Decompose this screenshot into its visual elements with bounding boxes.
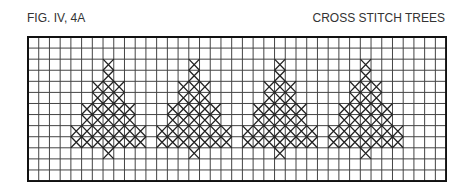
cross-stitch xyxy=(382,103,393,114)
cross-stitch xyxy=(253,126,264,137)
cross-stitch xyxy=(92,115,103,126)
cross-stitch xyxy=(71,137,82,148)
cross-stitch xyxy=(200,92,211,103)
cross-stitch xyxy=(242,126,253,137)
cross-stitch xyxy=(114,92,125,103)
cross-stitch xyxy=(92,103,103,114)
cross-stitch xyxy=(103,137,114,148)
cross-stitch xyxy=(200,103,211,114)
cross-stitch xyxy=(189,70,200,81)
cross-stitch xyxy=(253,103,264,114)
cross-stitch xyxy=(392,137,403,148)
cross-stitch xyxy=(339,137,350,148)
cross-stitch xyxy=(296,103,307,114)
cross-stitch xyxy=(275,103,286,114)
cross-stitch xyxy=(71,126,82,137)
cross-stitch xyxy=(307,137,318,148)
cross-stitch xyxy=(167,115,178,126)
cross-stitch xyxy=(200,115,211,126)
cross-stitch xyxy=(360,115,371,126)
cross-stitch xyxy=(371,126,382,137)
cross-stitch xyxy=(360,81,371,92)
tree-4 xyxy=(328,59,403,159)
cross-stitch xyxy=(360,137,371,148)
cross-stitch xyxy=(360,59,371,70)
cross-stitch xyxy=(200,137,211,148)
cross-stitch xyxy=(103,59,114,70)
cross-stitch xyxy=(328,126,339,137)
cross-stitch xyxy=(360,103,371,114)
figure-label: FIG. IV, 4A xyxy=(27,11,85,25)
cross-stitch xyxy=(264,115,275,126)
cross-stitch-grid xyxy=(27,36,447,182)
cross-stitch xyxy=(210,126,221,137)
cross-stitch xyxy=(371,115,382,126)
cross-stitch xyxy=(339,103,350,114)
cross-stitch xyxy=(285,115,296,126)
cross-stitch xyxy=(275,148,286,159)
cross-stitch xyxy=(178,137,189,148)
cross-stitch xyxy=(103,92,114,103)
cross-stitch xyxy=(371,92,382,103)
cross-stitch xyxy=(189,81,200,92)
cross-stitch xyxy=(114,103,125,114)
grid-border xyxy=(28,37,446,181)
cross-stitch xyxy=(92,126,103,137)
cross-stitch xyxy=(210,115,221,126)
cross-stitch xyxy=(285,103,296,114)
cross-stitch xyxy=(275,115,286,126)
cross-stitch xyxy=(178,81,189,92)
cross-stitch xyxy=(296,126,307,137)
cross-stitch xyxy=(103,70,114,81)
cross-stitch xyxy=(103,103,114,114)
cross-stitch xyxy=(103,148,114,159)
cross-stitch xyxy=(328,137,339,148)
cross-stitch xyxy=(360,92,371,103)
cross-stitch xyxy=(114,115,125,126)
cross-stitch xyxy=(178,92,189,103)
cross-stitch xyxy=(275,137,286,148)
grid-lines xyxy=(28,37,446,181)
cross-stitch xyxy=(124,115,135,126)
cross-stitch xyxy=(167,126,178,137)
cross-stitch xyxy=(189,92,200,103)
cross-stitch xyxy=(264,137,275,148)
cross-stitch xyxy=(275,70,286,81)
cross-stitch xyxy=(189,148,200,159)
cross-stitch xyxy=(189,126,200,137)
cross-stitch xyxy=(275,59,286,70)
cross-stitch xyxy=(167,137,178,148)
cross-stitch xyxy=(103,126,114,137)
cross-stitch xyxy=(264,126,275,137)
cross-stitch xyxy=(210,137,221,148)
cross-stitch xyxy=(296,137,307,148)
cross-stitch xyxy=(285,81,296,92)
cross-stitch xyxy=(200,81,211,92)
cross-stitch xyxy=(114,126,125,137)
cross-stitch xyxy=(178,103,189,114)
cross-stitch xyxy=(371,81,382,92)
cross-stitch xyxy=(82,103,93,114)
cross-stitch xyxy=(135,126,146,137)
cross-stitch xyxy=(296,115,307,126)
cross-stitch xyxy=(114,81,125,92)
cross-stitch xyxy=(189,115,200,126)
cross-stitch xyxy=(92,137,103,148)
cross-stitch xyxy=(103,115,114,126)
cross-stitch xyxy=(275,126,286,137)
cross-stitch xyxy=(92,92,103,103)
cross-stitch xyxy=(114,137,125,148)
cross-stitch xyxy=(178,126,189,137)
cross-stitch xyxy=(200,126,211,137)
figure-title: CROSS STITCH TREES xyxy=(313,11,445,25)
cross-stitch xyxy=(221,137,232,148)
cross-stitch xyxy=(382,137,393,148)
cross-stitch xyxy=(360,126,371,137)
cross-stitch xyxy=(189,103,200,114)
cross-stitch xyxy=(307,126,318,137)
cross-stitch xyxy=(221,126,232,137)
cross-stitch xyxy=(275,81,286,92)
cross-stitch xyxy=(103,81,114,92)
cross-stitch xyxy=(264,81,275,92)
cross-stitch xyxy=(339,115,350,126)
